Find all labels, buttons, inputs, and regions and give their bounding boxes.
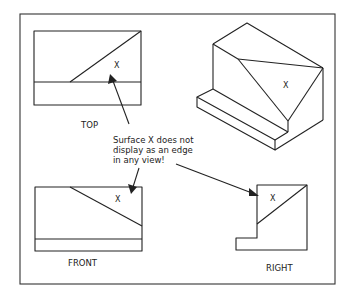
iso-top-left-edge (213, 44, 238, 59)
arrow-to-top-view (113, 81, 129, 124)
iso-surface-x-right-edge (288, 68, 323, 121)
top-view: X TOP (34, 31, 141, 130)
annotation-line-3: in any view! (113, 155, 165, 165)
arrow-to-right-view (176, 164, 252, 193)
annotation-line-1: Surface X does not (113, 135, 194, 145)
front-view-surface-x: X (115, 195, 121, 204)
top-view-inclined-edge (70, 31, 141, 82)
right-view-inclined-edge (257, 185, 307, 224)
right-view: X RIGHT (236, 185, 307, 273)
annotation: Surface X does not display as an edge in… (113, 135, 194, 165)
front-view-label: FRONT (68, 258, 98, 268)
iso-step-back-edge (213, 89, 288, 132)
isometric-view: X (197, 23, 323, 150)
iso-top-ridge (213, 23, 323, 68)
iso-surface-x-left-edge (238, 59, 288, 121)
top-view-surface-x: X (114, 61, 120, 70)
technical-drawing: X TOP X Surface X does not display as an… (0, 0, 347, 297)
iso-surface-x: X (283, 81, 289, 90)
top-view-label: TOP (80, 120, 98, 130)
arrowhead-front-view (128, 184, 137, 194)
iso-base-front (197, 97, 275, 150)
right-view-surface-x: X (270, 194, 276, 203)
arrow-to-front-view (133, 168, 139, 187)
front-view: X FRONT (35, 187, 142, 268)
annotation-line-2: display as an edge (113, 145, 193, 155)
right-view-label: RIGHT (266, 263, 293, 273)
